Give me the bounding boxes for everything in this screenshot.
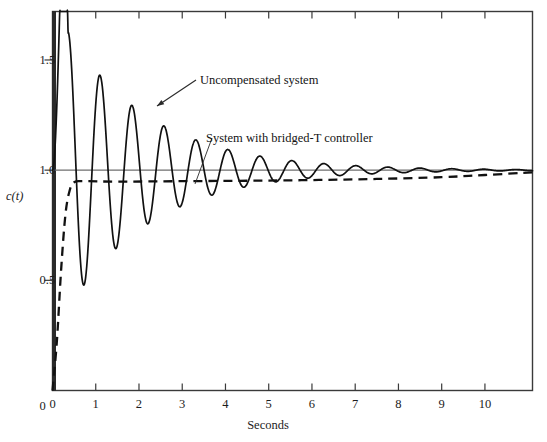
x-tick-label: 5: [266, 397, 272, 412]
x-tick-label: 1: [93, 397, 99, 412]
y-axis-title: c(t): [6, 189, 23, 204]
axis-frame: [53, 12, 533, 391]
plot-frame: [52, 11, 533, 391]
x-tick-label: 10: [479, 397, 492, 412]
figure-container: Uncompensated system System with bridged…: [0, 0, 547, 442]
axis-left-thick: [52, 11, 56, 391]
chart-plot-area: [0, 0, 547, 442]
x-tick-label: 2: [136, 397, 142, 412]
x-tick-label: 7: [352, 397, 358, 412]
x-tick-label: 6: [309, 397, 315, 412]
x-tick-label: 9: [439, 397, 445, 412]
x-tick-label: 4: [222, 397, 228, 412]
x-tick-label: 8: [395, 397, 401, 412]
uncompensated-system-annotation-label: Uncompensated system: [200, 73, 318, 88]
x-tick-label: 3: [179, 397, 185, 412]
x-tick-label: 0: [49, 397, 55, 412]
bridged-t-controller-annotation-label: System with bridged-T controller: [206, 131, 373, 146]
x-axis-title: Seconds: [247, 418, 289, 433]
